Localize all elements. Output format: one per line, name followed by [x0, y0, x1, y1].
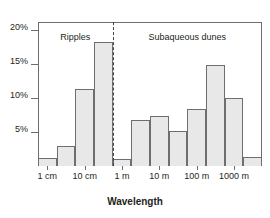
y-axis-tick-label: 10% — [10, 91, 28, 100]
bar — [169, 131, 188, 166]
x-axis-tick-mark — [234, 166, 235, 170]
y-axis-tick-label: 5% — [15, 125, 28, 134]
bar — [38, 158, 57, 166]
histogram-figure: 5%10%15%20% RipplesSubaqueous dunes 1 cm… — [0, 0, 270, 218]
bars-layer: RipplesSubaqueous dunes — [38, 22, 262, 166]
x-axis-tick-label: 1 m — [114, 171, 129, 181]
y-axis-tick-label: 15% — [10, 57, 28, 66]
class-divider-line — [113, 22, 114, 166]
x-axis: 1 cm10 cm1 m10 m100 m1000 m — [38, 166, 262, 186]
bar — [225, 98, 244, 166]
x-axis-tick-label: 1000 m — [219, 171, 249, 181]
bar — [75, 89, 94, 166]
bar — [206, 65, 225, 166]
bar — [94, 42, 113, 166]
y-axis-tick-label: 20% — [10, 23, 28, 32]
bar — [187, 109, 206, 166]
bar — [243, 157, 262, 167]
x-axis-tick-mark — [122, 166, 123, 170]
y-axis: 5%10%15%20% — [0, 0, 38, 218]
category-caption: Ripples — [60, 32, 90, 42]
bar — [150, 116, 169, 166]
x-axis-tick-mark — [85, 166, 86, 170]
y-axis-tick-mark — [31, 132, 38, 133]
bar — [57, 146, 76, 166]
category-caption: Subaqueous dunes — [149, 32, 227, 42]
x-axis-tick-mark — [197, 166, 198, 170]
x-axis-tick-label: 1 cm — [38, 171, 58, 181]
x-axis-tick-mark — [159, 166, 160, 170]
x-axis-tick-label: 100 m — [184, 171, 209, 181]
y-axis-tick-mark — [31, 64, 38, 65]
bar — [113, 159, 132, 166]
x-axis-tick-label: 10 cm — [72, 171, 97, 181]
bar — [131, 120, 150, 166]
y-axis-tick-mark — [31, 98, 38, 99]
x-axis-tick-label: 10 m — [149, 171, 169, 181]
y-axis-tick-mark — [31, 30, 38, 31]
x-axis-tick-mark — [47, 166, 48, 170]
x-axis-title: Wavelength — [0, 196, 270, 207]
